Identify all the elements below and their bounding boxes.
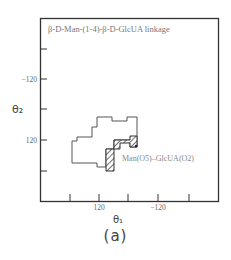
x-axis-ticks: [70, 194, 189, 201]
plot-frame: [41, 19, 219, 202]
y-tick-label-120: 120: [26, 136, 38, 145]
region-marker-dot: [135, 145, 137, 147]
x-tick-label-minus-120: −120: [150, 203, 166, 212]
x-tick-label-120: 120: [93, 203, 105, 212]
subfigure-caption: (a): [0, 227, 231, 245]
x-axis-label: θ₁: [113, 214, 123, 225]
conformation-map-figure: β-D-Man-(1-4)-β-D-GlcUA linkage −120 120…: [0, 0, 231, 260]
y-axis-label: θ₂: [12, 103, 23, 116]
plot-title: β-D-Man-(1-4)-β-D-GlcUA linkage: [48, 24, 170, 34]
hatched-region-label: Man(O5)–GlcUA(O2): [122, 154, 194, 163]
y-tick-label-minus-120: −120: [22, 75, 38, 84]
